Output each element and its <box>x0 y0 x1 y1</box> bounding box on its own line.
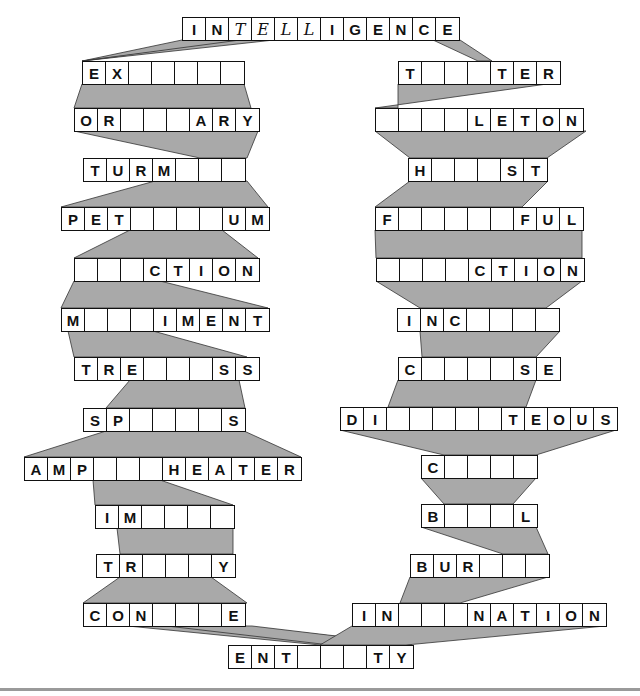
blank-letter-cell[interactable] <box>399 109 422 131</box>
blank-letter-cell[interactable] <box>153 409 176 431</box>
blank-letter-cell[interactable] <box>468 208 491 230</box>
blank-letter-cell[interactable] <box>167 358 190 380</box>
blank-letter-cell[interactable] <box>422 208 445 230</box>
blank-letter-cell[interactable] <box>491 505 514 527</box>
letter-cell: L <box>298 18 321 40</box>
blank-letter-cell[interactable] <box>144 358 167 380</box>
blank-letter-cell[interactable] <box>176 409 199 431</box>
blank-letter-cell[interactable] <box>121 109 144 131</box>
blank-letter-cell[interactable] <box>377 259 400 281</box>
blank-letter-cell[interactable] <box>410 408 433 430</box>
blank-letter-cell[interactable] <box>468 358 491 380</box>
blank-letter-cell[interactable] <box>468 505 491 527</box>
blank-letter-cell[interactable] <box>455 159 478 181</box>
blank-letter-cell[interactable] <box>445 604 468 626</box>
blank-letter-cell[interactable] <box>491 208 514 230</box>
blank-letter-cell[interactable] <box>167 109 190 131</box>
blank-letter-cell[interactable] <box>129 62 152 84</box>
letter-cell: T <box>492 259 515 281</box>
blank-letter-cell[interactable] <box>422 109 445 131</box>
blank-letter-cell[interactable] <box>536 309 559 331</box>
letter-cell: N <box>583 604 606 626</box>
blank-letter-cell[interactable] <box>432 159 455 181</box>
blank-letter-cell[interactable] <box>376 109 399 131</box>
blank-letter-cell[interactable] <box>445 456 468 478</box>
blank-letter-cell[interactable] <box>468 62 491 84</box>
blank-letter-cell[interactable] <box>144 109 167 131</box>
letter-cell: T <box>167 259 190 281</box>
blank-letter-cell[interactable] <box>198 62 221 84</box>
blank-letter-cell[interactable] <box>153 604 176 626</box>
blank-letter-cell[interactable] <box>221 62 244 84</box>
blank-letter-cell[interactable] <box>189 555 212 577</box>
blank-letter-cell[interactable] <box>479 408 502 430</box>
blank-letter-cell[interactable] <box>422 358 445 380</box>
blank-letter-cell[interactable] <box>154 208 177 230</box>
blank-letter-cell[interactable] <box>456 408 479 430</box>
blank-letter-cell[interactable] <box>165 506 188 528</box>
blank-letter-cell[interactable] <box>143 555 166 577</box>
blank-letter-cell[interactable] <box>98 259 121 281</box>
blank-letter-cell[interactable] <box>131 309 154 331</box>
letter-cell: E <box>537 358 560 380</box>
blank-letter-cell[interactable] <box>321 646 344 668</box>
blank-letter-cell[interactable] <box>211 506 234 528</box>
blank-letter-cell[interactable] <box>142 506 165 528</box>
blank-letter-cell[interactable] <box>445 62 468 84</box>
blank-letter-cell[interactable] <box>200 208 223 230</box>
blank-letter-cell[interactable] <box>467 309 490 331</box>
letter-cell: P <box>107 409 130 431</box>
blank-letter-cell[interactable] <box>94 458 117 480</box>
right-word-row-5: CTION <box>376 258 585 282</box>
blank-letter-cell[interactable] <box>399 604 422 626</box>
blank-letter-cell[interactable] <box>445 208 468 230</box>
blank-letter-cell[interactable] <box>491 456 514 478</box>
blank-letter-cell[interactable] <box>514 456 537 478</box>
blank-letter-cell[interactable] <box>468 456 491 478</box>
blank-letter-cell[interactable] <box>188 506 211 528</box>
blank-letter-cell[interactable] <box>422 62 445 84</box>
blank-letter-cell[interactable] <box>422 604 445 626</box>
blank-letter-cell[interactable] <box>298 646 321 668</box>
blank-letter-cell[interactable] <box>166 555 189 577</box>
blank-letter-cell[interactable] <box>199 604 222 626</box>
blank-letter-cell[interactable] <box>85 309 108 331</box>
blank-letter-cell[interactable] <box>446 259 469 281</box>
blank-letter-cell[interactable] <box>480 555 503 577</box>
blank-letter-cell[interactable] <box>108 309 131 331</box>
blank-letter-cell[interactable] <box>491 358 514 380</box>
blank-letter-cell[interactable] <box>176 604 199 626</box>
blank-letter-cell[interactable] <box>400 259 423 281</box>
blank-letter-cell[interactable] <box>199 409 222 431</box>
letter-cell: S <box>84 409 107 431</box>
blank-letter-cell[interactable] <box>513 309 536 331</box>
blank-letter-cell[interactable] <box>121 259 144 281</box>
letter-cell: X <box>106 62 129 84</box>
blank-letter-cell[interactable] <box>503 555 526 577</box>
blank-letter-cell[interactable] <box>190 358 213 380</box>
blank-letter-cell[interactable] <box>117 458 140 480</box>
blank-letter-cell[interactable] <box>344 646 367 668</box>
blank-letter-cell[interactable] <box>152 62 175 84</box>
blank-letter-cell[interactable] <box>423 259 446 281</box>
blank-letter-cell[interactable] <box>75 259 98 281</box>
blank-letter-cell[interactable] <box>526 555 549 577</box>
blank-letter-cell[interactable] <box>222 159 245 181</box>
blank-letter-cell[interactable] <box>176 159 199 181</box>
blank-letter-cell[interactable] <box>131 208 154 230</box>
blank-letter-cell[interactable] <box>130 409 153 431</box>
blank-letter-cell[interactable] <box>387 408 410 430</box>
blank-letter-cell[interactable] <box>140 458 163 480</box>
blank-letter-cell[interactable] <box>490 309 513 331</box>
blank-letter-cell[interactable] <box>433 408 456 430</box>
blank-letter-cell[interactable] <box>445 109 468 131</box>
blank-letter-cell[interactable] <box>445 358 468 380</box>
blank-letter-cell[interactable] <box>445 505 468 527</box>
blank-letter-cell[interactable] <box>175 62 198 84</box>
blank-letter-cell[interactable] <box>399 208 422 230</box>
blank-letter-cell[interactable] <box>478 159 501 181</box>
blank-letter-cell[interactable] <box>177 208 200 230</box>
left-word-row-8: SPS <box>83 408 246 432</box>
blank-letter-cell[interactable] <box>199 159 222 181</box>
letter-cell: L <box>275 18 298 40</box>
